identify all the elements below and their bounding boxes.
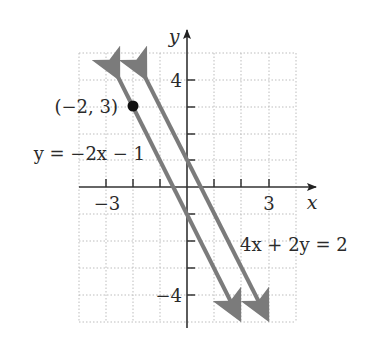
point-label: (−2, 3) bbox=[55, 96, 118, 117]
point-marker bbox=[128, 101, 139, 112]
equation-label-line1: y = −2x − 1 bbox=[33, 143, 145, 164]
graph-figure: −3 3 4 −4 x y (−2, 3) y = −2x − 1 4x + 2… bbox=[0, 0, 367, 338]
y-axis-label: y bbox=[168, 25, 180, 47]
y-tick-label-neg4: −4 bbox=[155, 285, 182, 306]
x-axis-label: x bbox=[307, 191, 318, 213]
equation-label-line2: 4x + 2y = 2 bbox=[240, 234, 348, 255]
y-tick-label-4: 4 bbox=[171, 70, 182, 91]
coordinate-plane: −3 3 4 −4 x y (−2, 3) y = −2x − 1 4x + 2… bbox=[0, 0, 367, 338]
x-tick-label-neg3: −3 bbox=[94, 193, 121, 214]
x-tick-label-3: 3 bbox=[263, 193, 274, 214]
